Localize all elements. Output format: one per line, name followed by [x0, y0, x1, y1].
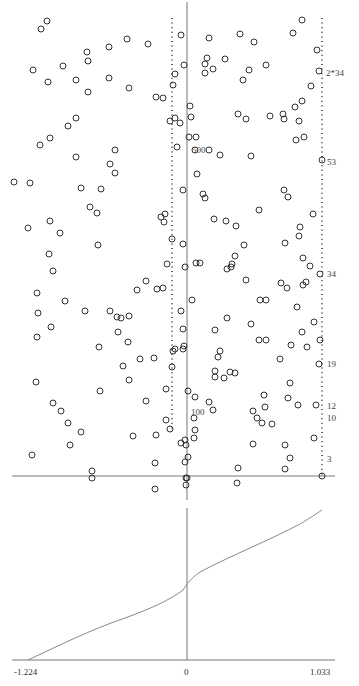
scatter-point — [25, 225, 31, 231]
scatter-point — [287, 455, 293, 461]
scatter-point — [82, 308, 88, 314]
scatter-point — [235, 465, 241, 471]
scatter-point — [284, 285, 290, 291]
scatter-point — [35, 310, 41, 316]
scatter-point — [246, 67, 252, 73]
scatter-point — [107, 161, 113, 167]
scatter-point — [293, 137, 299, 143]
scatter-point — [299, 17, 305, 23]
scatter-point — [235, 111, 241, 117]
scatter-point — [212, 327, 218, 333]
scatter-point — [50, 268, 56, 274]
scatter-point — [180, 187, 186, 193]
scatter-point — [282, 240, 288, 246]
scatter-point — [248, 153, 254, 159]
scatter-point — [233, 223, 239, 229]
scatter-point — [254, 415, 260, 421]
scatter-point — [115, 329, 121, 335]
chart-figure: 2*34 53 34 19 12 10 3 500 100 -1.224 0 1… — [0, 0, 359, 686]
scatter-point — [38, 26, 44, 32]
scatter-point — [96, 344, 102, 350]
scatter-point — [97, 388, 103, 394]
scatter-point — [300, 255, 306, 261]
scatter-point — [112, 170, 118, 176]
scatter-point — [44, 18, 50, 24]
scatter-point — [313, 402, 319, 408]
scatter-point — [206, 35, 212, 41]
scatter-point — [33, 379, 39, 385]
scatter-point — [11, 179, 17, 185]
scatter-point — [206, 399, 212, 405]
scatter-point — [45, 79, 51, 85]
scatter-point — [248, 321, 254, 327]
scatter-point — [299, 329, 305, 335]
scatter-point — [256, 337, 262, 343]
scatter-point — [181, 62, 187, 68]
scatter-point — [301, 134, 307, 140]
scatter-point — [189, 297, 195, 303]
scatter-point — [73, 77, 79, 83]
scatter-point — [107, 308, 113, 314]
scatter-point — [120, 363, 126, 369]
scatter-point — [277, 356, 283, 362]
scatter-point — [241, 242, 247, 248]
scatter-point — [314, 47, 320, 53]
scatter-point — [243, 277, 249, 283]
scatter-point — [180, 326, 186, 332]
scatter-point — [311, 319, 317, 325]
scatter-point — [307, 263, 313, 269]
scatter-point — [234, 480, 240, 486]
scatter-point — [296, 233, 302, 239]
chart-canvas: 2*34 53 34 19 12 10 3 500 100 -1.224 0 1… — [0, 0, 359, 686]
scatter-point — [187, 103, 193, 109]
scatter-point — [221, 375, 227, 381]
scatter-point — [94, 210, 100, 216]
scatter-point — [194, 171, 200, 177]
scatter-point — [294, 304, 300, 310]
annotation-label: 500 — [192, 145, 206, 155]
scatter-point — [164, 261, 170, 267]
scatter-point — [178, 308, 184, 314]
scatter-point — [34, 290, 40, 296]
scatter-point — [240, 77, 246, 83]
scatter-point — [137, 356, 143, 362]
scatter-point — [34, 334, 40, 340]
scatter-point — [223, 218, 229, 224]
scatter-point — [222, 56, 228, 62]
scatter-point — [177, 120, 183, 126]
scatter-point — [30, 67, 36, 73]
scatter-point — [167, 426, 173, 432]
scatter-point — [212, 368, 218, 374]
scatter-point — [256, 207, 262, 213]
scatter-point — [73, 115, 79, 121]
scatter-point — [292, 104, 298, 110]
scatter-point — [89, 468, 95, 474]
scatter-point — [112, 147, 118, 153]
scatter-point — [85, 58, 91, 64]
scatter-point — [290, 30, 296, 36]
scatter-point — [210, 66, 216, 72]
scatter-point — [217, 152, 223, 158]
scatter-point — [232, 253, 238, 259]
scatter-point — [58, 408, 64, 414]
scatter-point — [297, 224, 303, 230]
scatter-point — [257, 297, 263, 303]
scatter-point — [317, 271, 323, 277]
scatter-point — [278, 280, 284, 286]
scatter-point — [130, 433, 136, 439]
scatter-point — [237, 31, 243, 37]
scatter-point — [114, 314, 120, 320]
scatter-point — [202, 61, 208, 67]
scatter-point — [78, 429, 84, 435]
scatter-point — [191, 435, 197, 441]
scatter-point — [192, 427, 198, 433]
scatter-point — [84, 49, 90, 55]
scatter-point — [126, 313, 132, 319]
scatter-point — [282, 442, 288, 448]
scatter-point — [263, 337, 269, 343]
scatter-point — [106, 75, 112, 81]
scatter-point — [167, 118, 173, 124]
scatter-point — [185, 388, 191, 394]
scatter-point — [250, 408, 256, 414]
scatter-point — [65, 123, 71, 129]
